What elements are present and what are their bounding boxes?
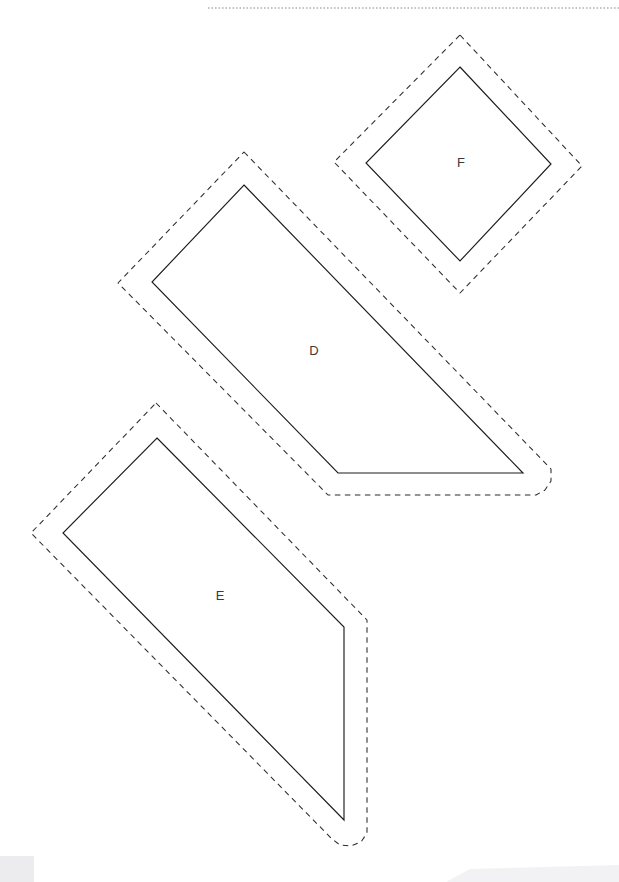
smudge-bottom-right: [446, 865, 619, 882]
pattern-piece-d[interactable]: D: [118, 152, 551, 495]
pattern-sheet: F D E: [0, 0, 619, 882]
piece-d-cut-line: [152, 185, 523, 473]
piece-d-label: D: [309, 343, 318, 358]
piece-f-label: F: [457, 155, 465, 170]
piece-d-seam-allowance-line: [118, 152, 551, 495]
pattern-canvas: F D E: [0, 0, 619, 882]
smudge-bottom-left: [0, 856, 34, 882]
scan-artifacts: [0, 856, 619, 882]
piece-e-label: E: [216, 588, 225, 603]
pattern-piece-e[interactable]: E: [31, 403, 367, 846]
piece-e-cut-line: [63, 438, 344, 820]
piece-e-seam-allowance-line: [31, 403, 367, 846]
pattern-piece-f[interactable]: F: [334, 35, 582, 293]
